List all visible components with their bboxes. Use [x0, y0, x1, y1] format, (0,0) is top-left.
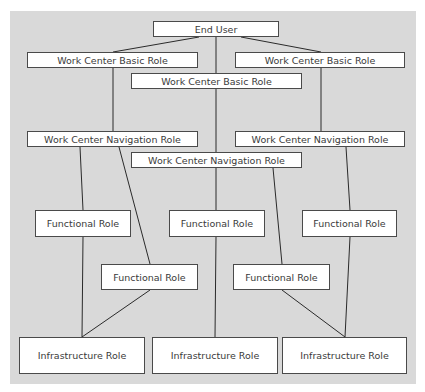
node-work-center-navigation-role-right: Work Center Navigation Role: [235, 131, 405, 147]
node-infrastructure-role-left: Infrastructure Role: [19, 337, 145, 374]
node-work-center-basic-role-right: Work Center Basic Role: [235, 52, 405, 68]
node-work-center-basic-role-left: Work Center Basic Role: [27, 52, 198, 68]
node-functional-role-right: Functional Role: [302, 210, 397, 237]
node-infrastructure-role-middle: Infrastructure Role: [152, 337, 278, 374]
node-functional-role-lower-right: Functional Role: [233, 264, 330, 290]
node-functional-role-lower-left: Functional Role: [101, 264, 198, 290]
node-infrastructure-role-right: Infrastructure Role: [282, 337, 407, 374]
node-functional-role-left: Functional Role: [35, 210, 131, 237]
node-work-center-basic-role-middle: Work Center Basic Role: [131, 73, 302, 89]
node-end-user: End User: [153, 21, 279, 37]
node-functional-role-middle: Functional Role: [169, 210, 265, 237]
node-work-center-navigation-role-middle: Work Center Navigation Role: [131, 152, 302, 168]
node-work-center-navigation-role-left: Work Center Navigation Role: [27, 131, 198, 147]
